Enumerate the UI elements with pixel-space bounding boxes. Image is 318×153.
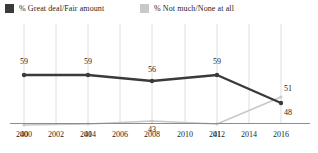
x-tick-label: 2014 [241,130,257,140]
x-tick-label: 2002 [48,130,64,140]
legend-item-not-much[interactable]: % Not much/None at all [140,4,234,13]
legend-item-great-deal[interactable]: % Great deal/Fair amount [5,4,104,13]
x-tick-label: 2004 [80,130,96,140]
x-tick-label: 2016 [273,130,289,140]
data-point-great-deal[interactable] [279,101,283,105]
data-point-great-deal[interactable] [150,79,154,83]
legend-label-great-deal: % Great deal/Fair amount [19,4,104,13]
plot-svg [0,24,318,123]
x-tick-label: 2010 [177,130,193,140]
x-axis: 200020022004200620082010201220142016 [0,123,318,153]
legend-label-not-much: % Not much/None at all [154,4,234,13]
x-tick-label: 2008 [144,130,160,140]
data-point-great-deal[interactable] [215,73,219,77]
series-markers [22,73,283,127]
data-label-great-deal: 59 [84,57,92,66]
data-label-great-deal: 56 [148,65,156,74]
data-label-great-deal: 48 [284,108,292,117]
x-tick-label: 2006 [112,130,128,140]
data-point-great-deal[interactable] [86,73,90,77]
data-point-not-much[interactable] [280,96,283,99]
x-tick-label: 2012 [209,130,225,140]
data-label-great-deal: 59 [213,57,221,66]
data-label-not-much: 51 [284,84,292,93]
data-label-great-deal: 59 [20,57,28,66]
plot-area: 40414341515959565948 [0,24,318,123]
data-point-great-deal[interactable] [22,73,26,77]
legend-swatch-not-much-icon [140,4,149,13]
x-axis-line [10,123,310,124]
x-tick-label: 2000 [16,130,32,140]
legend-swatch-great-deal-icon [5,4,14,13]
line-chart: % Great deal/Fair amount % Not much/None… [0,0,318,153]
chart-legend: % Great deal/Fair amount % Not much/None… [0,0,318,24]
